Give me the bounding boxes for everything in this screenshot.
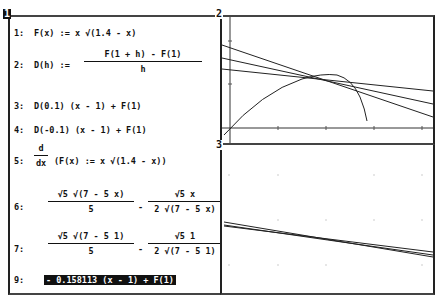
window-label-2[interactable]: 2 xyxy=(215,9,223,19)
window-label-1[interactable]: 1 xyxy=(3,9,11,19)
secant-line-b xyxy=(222,69,433,91)
derivative-operator: d dx xyxy=(34,143,48,168)
fraction: F(1 + h) - F(1) h xyxy=(84,49,202,74)
plot-canvas xyxy=(222,17,433,143)
function-curve xyxy=(224,75,367,136)
fraction: √5 x 2 √(7 - 5 x) xyxy=(148,189,222,214)
window-label-3[interactable]: 3 xyxy=(215,140,223,150)
algebra-window[interactable]: 1: F(x) := x √(1.4 - x) 2: D(h) := F(1 +… xyxy=(8,15,220,295)
tangent-line xyxy=(222,58,433,104)
function-curve xyxy=(224,225,433,255)
plot-canvas-zoomed xyxy=(222,145,433,293)
plot-window-3[interactable] xyxy=(220,145,435,295)
fraction: √5 1 2 √(7 - 5 1) xyxy=(148,231,222,256)
plot-window-2[interactable] xyxy=(220,15,435,145)
fraction: √5 √(7 - 5 1) 5 xyxy=(48,231,134,256)
selected-expression[interactable]: - 0.158113 (x - 1) + F(1) xyxy=(44,275,176,285)
fraction: √5 √(7 - 5 x) 5 xyxy=(48,189,134,214)
